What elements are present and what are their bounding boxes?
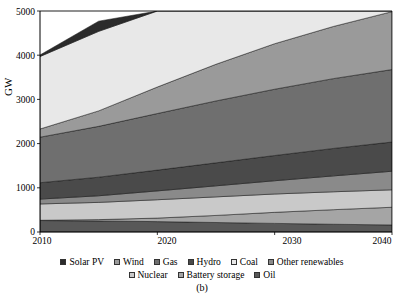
legend-swatch-icon-other-renewables [268,259,274,265]
legend-item-hydro[interactable]: Hydro [188,255,221,268]
legend-row-1: Solar PVWindGasHydroCoalOther renewables [0,255,404,268]
legend-label: Solar PV [69,256,104,268]
legend-label: Battery storage [187,269,245,281]
legend: Solar PVWindGasHydroCoalOther renewables… [0,255,404,281]
legend-label: Other renewables [277,256,344,268]
legend-label: Wind [123,256,144,268]
legend-row-2: NuclearBattery storageOil [0,268,404,281]
legend-item-solar-pv[interactable]: Solar PV [60,255,104,268]
area-series-group [40,11,392,232]
figure-container: GW 5000 4000 3000 2000 1000 0 2010 2020 … [0,0,404,300]
legend-label: Hydro [197,256,221,268]
legend-swatch-icon-gas [154,259,160,265]
legend-label: Oil [263,269,275,281]
legend-swatch-icon-solar-pv [60,259,66,265]
legend-item-gas[interactable]: Gas [154,255,178,268]
legend-item-other-renewables[interactable]: Other renewables [268,255,344,268]
legend-swatch-icon-nuclear [129,272,135,278]
legend-swatch-icon-wind [114,259,120,265]
legend-swatch-icon-oil [254,272,260,278]
legend-item-battery-storage[interactable]: Battery storage [178,269,245,282]
figure-caption: (b) [0,282,404,293]
legend-label: Nuclear [138,269,168,281]
legend-label: Coal [240,256,258,268]
legend-label: Gas [163,256,178,268]
legend-swatch-icon-coal [231,259,237,265]
legend-item-nuclear[interactable]: Nuclear [129,269,168,282]
legend-item-wind[interactable]: Wind [114,255,144,268]
legend-swatch-icon-hydro [188,259,194,265]
legend-swatch-icon-battery-storage [178,272,184,278]
legend-item-oil[interactable]: Oil [254,269,275,282]
legend-item-coal[interactable]: Coal [231,255,258,268]
